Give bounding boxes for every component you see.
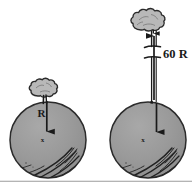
planet-sphere-left <box>10 102 86 180</box>
physics-diagram-figure: R x <box>0 0 192 183</box>
line-break-mark <box>145 46 161 58</box>
right-panel-altitude-case: 60 R x <box>110 8 189 180</box>
radius-label-left: R <box>38 107 47 119</box>
tree-left <box>29 78 57 103</box>
tree-right <box>131 8 165 33</box>
center-mark-right: x <box>141 136 145 144</box>
distance-label-60R: 60 R <box>163 47 189 61</box>
left-panel-surface-case: R x <box>10 78 86 180</box>
pole-base-marks-right <box>150 101 153 103</box>
diagram-canvas: R x <box>0 0 192 183</box>
planet-sphere-right <box>110 102 186 180</box>
center-mark-left: x <box>41 136 45 144</box>
